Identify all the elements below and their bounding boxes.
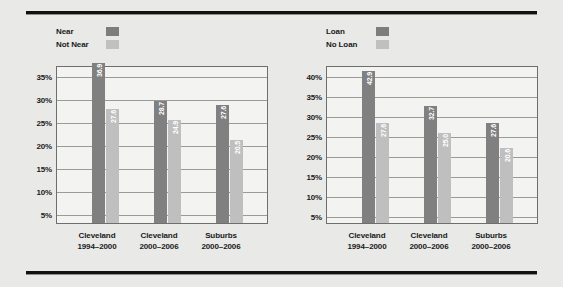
bar-near-cleveland-1994: 36.9: [92, 63, 105, 223]
top-rule-shadow: [26, 14, 537, 15]
ytick-label-25: 25%: [307, 133, 322, 142]
legend-item-loan: Loan: [326, 26, 389, 37]
xlabel-loan-cleveland-1994-line2: 1994–2000: [332, 241, 402, 252]
right-chart-plot-area: 40% 35% 30% 25% 20% 15% 10% 5%: [326, 66, 538, 224]
bar-near-cleveland-2000: 28.7: [154, 101, 167, 223]
ytick-label-30: 30%: [307, 113, 322, 122]
bar-value-no-loan-suburbs-2000: 20.6: [502, 149, 511, 162]
left-chart-bars: 36.9 27.6 28.7 24.9 27.6: [57, 67, 267, 223]
bar-no-loan-cleveland-2000: 25.0: [438, 133, 451, 223]
bar-value-loan-cleveland-2000: 32.7: [426, 107, 435, 120]
right-chart-x-axis-labels: Cleveland 1994–2000 Cleveland 2000–2006 …: [326, 230, 538, 260]
bar-value-no-loan-cleveland-1994: 27.6: [378, 124, 387, 137]
legend-swatch-no-loan: [376, 40, 389, 49]
legend-item-no-loan: No Loan: [326, 39, 389, 50]
xlabel-suburbs-2000-line2: 2000–2006: [186, 241, 256, 252]
xlabel-cleveland-2000: Cleveland 2000–2006: [124, 230, 194, 252]
left-chart-plot-area: 35% 30% 25% 20% 15% 10% 5%: [56, 66, 268, 224]
xlabel-loan-cleveland-1994-line1: Cleveland: [332, 230, 402, 241]
bar-value-near-suburbs-2000: 27.6: [218, 106, 227, 119]
xlabel-suburbs-2000-line1: Suburbs: [186, 230, 256, 241]
bar-not-near-cleveland-2000: 24.9: [168, 120, 181, 223]
bar-group-loan-suburbs-2000: 27.6 20.6: [473, 67, 529, 223]
xlabel-cleveland-2000-line1: Cleveland: [124, 230, 194, 241]
ytick-label-30: 30%: [37, 96, 52, 105]
bar-not-near-suburbs-2000: 20.5: [230, 140, 243, 223]
ytick-label-15: 15%: [307, 173, 322, 182]
xlabel-cleveland-2000-line2: 2000–2006: [124, 241, 194, 252]
bar-no-loan-cleveland-1994: 27.6: [376, 123, 389, 223]
ytick-label-10: 10%: [37, 188, 52, 197]
legend-swatch-near: [106, 27, 119, 36]
bar-group-loan-cleveland-2000: 32.7 25.0: [411, 67, 467, 223]
ytick-label-35: 35%: [307, 93, 322, 102]
bar-group-cleveland-1994: 36.9 27.6: [79, 67, 135, 223]
bar-value-not-near-suburbs-2000: 20.5: [232, 141, 241, 154]
ytick-label-15: 15%: [37, 165, 52, 174]
xlabel-cleveland-1994-line1: Cleveland: [62, 230, 132, 241]
ytick-label-40: 40%: [307, 73, 322, 82]
ytick-label-25: 25%: [37, 119, 52, 128]
legend-item-not-near: Not Near: [56, 39, 119, 50]
bottom-rule-shadow: [26, 274, 537, 275]
right-chart-legend: Loan No Loan: [326, 26, 389, 52]
bar-group-cleveland-2000: 28.7 24.9: [141, 67, 197, 223]
bar-loan-suburbs-2000: 27.6: [486, 123, 499, 223]
legend-swatch-not-near: [106, 40, 119, 49]
legend-swatch-loan: [376, 27, 389, 36]
left-chart-x-axis-labels: Cleveland 1994–2000 Cleveland 2000–2006 …: [56, 230, 268, 260]
xlabel-loan-cleveland-2000: Cleveland 2000–2006: [394, 230, 464, 252]
legend-item-near: Near: [56, 26, 119, 37]
legend-label-near: Near: [56, 26, 102, 37]
bar-near-suburbs-2000: 27.6: [216, 105, 229, 223]
xlabel-loan-suburbs-2000-line1: Suburbs: [456, 230, 526, 241]
xlabel-cleveland-1994-line2: 1994–2000: [62, 241, 132, 252]
bar-value-near-cleveland-1994: 36.9: [94, 64, 103, 77]
bar-group-loan-cleveland-1994: 42.9 27.6: [349, 67, 405, 223]
bar-value-loan-cleveland-1994: 42.9: [364, 72, 373, 85]
bar-value-not-near-cleveland-2000: 24.9: [170, 121, 179, 134]
bar-not-near-cleveland-1994: 27.6: [106, 109, 119, 223]
ytick-label-35: 35%: [37, 73, 52, 82]
bar-group-suburbs-2000: 27.6 20.5: [203, 67, 259, 223]
xlabel-suburbs-2000: Suburbs 2000–2006: [186, 230, 256, 252]
legend-label-no-loan: No Loan: [326, 39, 372, 50]
xlabel-cleveland-1994: Cleveland 1994–2000: [62, 230, 132, 252]
bar-value-no-loan-cleveland-2000: 25.0: [440, 134, 449, 147]
legend-label-loan: Loan: [326, 26, 372, 37]
left-chart-legend: Near Not Near: [56, 26, 119, 52]
figure-page: Near Not Near 35% 30% 25% 20% 15: [0, 0, 563, 287]
bar-no-loan-suburbs-2000: 20.6: [500, 148, 513, 223]
xlabel-loan-suburbs-2000: Suburbs 2000–2006: [456, 230, 526, 252]
bar-value-loan-suburbs-2000: 27.6: [488, 124, 497, 137]
ytick-label-5: 5%: [311, 213, 322, 222]
bar-loan-cleveland-1994: 42.9: [362, 71, 375, 223]
legend-label-not-near: Not Near: [56, 39, 102, 50]
bar-loan-cleveland-2000: 32.7: [424, 106, 437, 223]
ytick-label-20: 20%: [307, 153, 322, 162]
bar-value-near-cleveland-2000: 28.7: [156, 102, 165, 115]
xlabel-loan-cleveland-2000-line1: Cleveland: [394, 230, 464, 241]
right-chart-bars: 42.9 27.6 32.7 25.0 27.6: [327, 67, 537, 223]
xlabel-loan-suburbs-2000-line2: 2000–2006: [456, 241, 526, 252]
ytick-label-20: 20%: [37, 142, 52, 151]
ytick-label-10: 10%: [307, 193, 322, 202]
xlabel-loan-cleveland-2000-line2: 2000–2006: [394, 241, 464, 252]
xlabel-loan-cleveland-1994: Cleveland 1994–2000: [332, 230, 402, 252]
right-chart-panel: Loan No Loan 40% 35% 30% 25% 20%: [292, 20, 545, 265]
ytick-label-5: 5%: [41, 211, 52, 220]
left-chart-panel: Near Not Near 35% 30% 25% 20% 15: [22, 20, 275, 265]
bar-value-not-near-cleveland-1994: 27.6: [108, 110, 117, 123]
